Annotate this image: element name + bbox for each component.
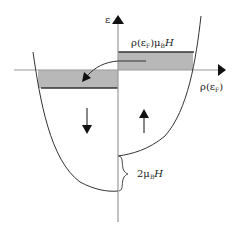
left-shaded-region bbox=[38, 70, 118, 88]
spin-up-arrow-icon bbox=[139, 109, 149, 133]
dos-diagram: ε ρ(εF)μBH ρ(εF) 2μBH bbox=[0, 0, 233, 239]
gap-label: 2μBH bbox=[137, 168, 163, 180]
x-axis-label: ρ(εF) bbox=[200, 81, 223, 93]
y-axis-arrowhead-icon bbox=[112, 15, 124, 24]
top-label: ρ(εF)μBH bbox=[131, 37, 174, 49]
spin-down-arrow-icon bbox=[82, 108, 92, 134]
x-axis-arrowhead-icon bbox=[218, 64, 226, 76]
gap-brace-icon bbox=[119, 156, 128, 191]
y-axis-label: ε bbox=[105, 14, 110, 25]
